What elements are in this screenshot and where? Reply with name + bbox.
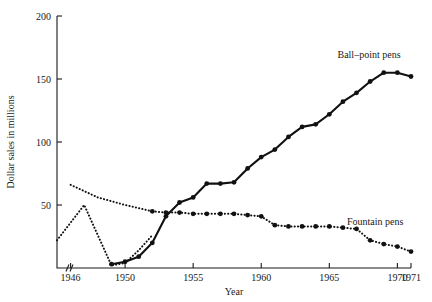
chart-container: 501001502001946195019551960196519701971Y… — [0, 0, 432, 302]
data-point — [368, 238, 373, 243]
data-point — [381, 242, 386, 247]
data-point — [327, 112, 332, 117]
series-line-0 — [111, 73, 411, 265]
series-label-ball-point-pens: Ball–point pens — [337, 49, 400, 60]
series-line-3 — [71, 185, 153, 211]
y-axis-title: Dollar sales in millions — [5, 95, 16, 188]
data-point — [286, 135, 291, 140]
data-point — [218, 181, 223, 186]
data-point — [272, 147, 277, 152]
data-point — [177, 200, 182, 205]
data-point — [204, 181, 209, 186]
data-point — [354, 90, 359, 95]
data-point — [354, 227, 359, 232]
data-point — [259, 155, 264, 160]
data-point — [368, 79, 373, 84]
data-point — [381, 70, 386, 75]
data-point — [245, 213, 250, 218]
x-tick-label: 1971 — [401, 272, 421, 283]
data-point — [164, 210, 169, 215]
data-point — [327, 224, 332, 229]
data-point — [232, 211, 237, 216]
y-tick-label: 50 — [41, 200, 51, 211]
data-point — [395, 244, 400, 249]
data-point — [136, 254, 141, 259]
data-point — [150, 240, 155, 245]
x-tick-label: 1965 — [319, 272, 339, 283]
data-point — [259, 214, 264, 219]
series-label-fountain-pens: Fountain pens — [347, 216, 403, 227]
data-point — [300, 124, 305, 129]
x-tick-label: 1955 — [183, 272, 203, 283]
data-point — [191, 211, 196, 216]
series-layer — [57, 70, 413, 266]
y-tick-label: 200 — [36, 11, 51, 22]
data-point — [395, 70, 400, 75]
y-tick-label: 100 — [36, 137, 51, 148]
x-tick-label: 1960 — [251, 272, 271, 283]
data-point — [177, 210, 182, 215]
x-tick-label: 1946 — [61, 272, 81, 283]
data-point — [409, 74, 414, 79]
data-point — [191, 195, 196, 200]
data-point — [218, 211, 223, 216]
data-point — [300, 224, 305, 229]
data-point — [341, 99, 346, 104]
x-tick-label: 1950 — [115, 272, 135, 283]
data-point — [313, 122, 318, 127]
y-tick-label: 150 — [36, 74, 51, 85]
labels-layer: 501001502001946195019551960196519701971Y… — [5, 11, 421, 298]
x-axis-title: Year — [225, 286, 244, 297]
data-point — [232, 180, 237, 185]
data-point — [272, 223, 277, 228]
data-point — [341, 225, 346, 230]
pen-sales-chart: 501001502001946195019551960196519701971Y… — [0, 0, 432, 302]
data-point — [313, 224, 318, 229]
data-point — [409, 249, 414, 254]
data-point — [286, 224, 291, 229]
data-point — [204, 211, 209, 216]
data-point — [245, 166, 250, 171]
